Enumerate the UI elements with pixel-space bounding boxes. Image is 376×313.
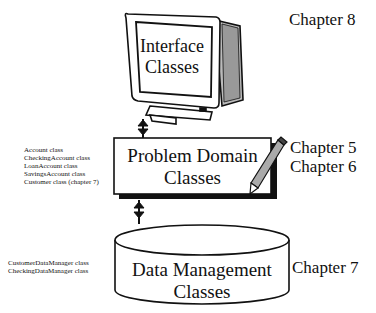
class-list-item: Account class bbox=[24, 146, 99, 154]
class-list-item: CustomerDataManager class bbox=[8, 259, 89, 267]
interface-classes-label: Interface Classes bbox=[132, 36, 212, 78]
interface-title-line1: Interface bbox=[132, 36, 212, 57]
class-list-item: SavingsAccount class bbox=[24, 170, 99, 178]
data-management-title-line2: Classes bbox=[115, 281, 289, 303]
class-list-item: CheckingAccount class bbox=[24, 154, 99, 162]
interface-title-line2: Classes bbox=[132, 57, 212, 78]
problem-domain-class-list: Account class CheckingAccount class Loan… bbox=[24, 146, 99, 186]
class-list-item: LoanAccount class bbox=[24, 162, 99, 170]
data-management-title-line1: Data Management bbox=[115, 259, 289, 281]
problem-domain-title-line2: Classes bbox=[114, 167, 271, 189]
problem-domain-label: Problem Domain Classes bbox=[114, 145, 271, 189]
bidirectional-arrow-icon bbox=[138, 119, 148, 140]
problem-domain-chapter-2: Chapter 6 bbox=[290, 157, 357, 176]
interface-chapter: Chapter 8 bbox=[289, 10, 356, 29]
data-management-label: Data Management Classes bbox=[115, 259, 289, 303]
data-management-class-list: CustomerDataManager class CheckingDataMa… bbox=[8, 259, 89, 275]
data-management-chapter: Chapter 7 bbox=[292, 258, 359, 277]
problem-domain-chapter-1: Chapter 5 bbox=[290, 138, 357, 157]
problem-domain-title-line1: Problem Domain bbox=[114, 145, 271, 167]
class-list-item: CheckingDataManager class bbox=[8, 267, 89, 275]
bidirectional-arrow-icon bbox=[134, 200, 144, 224]
class-list-item: Customer class (chapter 7) bbox=[24, 178, 99, 186]
